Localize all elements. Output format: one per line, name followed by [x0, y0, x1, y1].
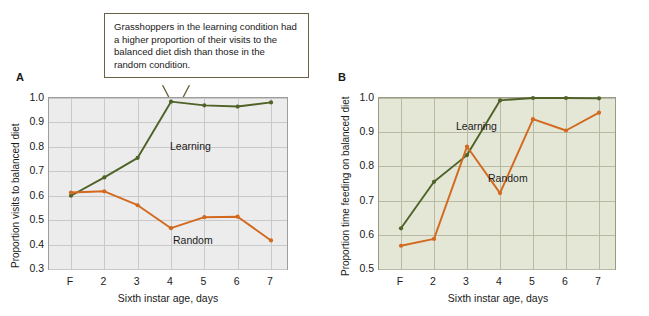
- x-tick-label: F: [60, 275, 80, 287]
- gridline-horizontal: [379, 269, 615, 270]
- panel-a-plot-area: [48, 97, 288, 270]
- figure-root: A Grasshoppers in the learning condition…: [0, 0, 649, 316]
- x-tick-label: 5: [193, 275, 213, 287]
- data-point-random: [102, 189, 106, 193]
- panel-a-callout: Grasshoppers in the learning condition h…: [104, 13, 309, 78]
- data-point-random: [169, 226, 173, 230]
- data-point-learning: [465, 153, 469, 157]
- data-point-learning: [169, 100, 173, 104]
- y-tick-label: 0.6: [340, 228, 374, 240]
- panel-a-random-label: Random: [173, 234, 213, 246]
- panel-a-callout-text: Grasshoppers in the learning condition h…: [114, 21, 299, 71]
- y-tick-label: 0.8: [340, 159, 374, 171]
- data-point-learning: [432, 180, 436, 184]
- y-tick-label: 1.0: [340, 91, 374, 103]
- data-point-learning: [597, 96, 601, 100]
- x-tick-label: 7: [260, 275, 280, 287]
- data-point-random: [69, 190, 73, 194]
- data-point-random: [597, 111, 601, 115]
- panel-a-x-ticks: F234567: [0, 275, 330, 289]
- panel-b-x-axis-label: Sixth instar age, days: [378, 292, 618, 304]
- y-tick-label: 0.5: [340, 262, 374, 274]
- panel-a-learning-label: Learning: [170, 140, 211, 152]
- data-point-random: [465, 144, 469, 148]
- data-point-random: [399, 244, 403, 248]
- x-tick-label: 3: [456, 275, 476, 287]
- x-tick-label: 4: [489, 275, 509, 287]
- series-layer: [49, 98, 287, 269]
- data-point-learning: [531, 96, 535, 100]
- data-point-random: [564, 128, 568, 132]
- x-tick-label: 2: [93, 275, 113, 287]
- y-tick-label: 0.4: [10, 238, 44, 250]
- data-point-random: [236, 215, 240, 219]
- data-point-learning: [399, 226, 403, 230]
- y-tick-label: 0.5: [10, 213, 44, 225]
- data-point-learning: [202, 103, 206, 107]
- panel-b-letter: B: [338, 71, 346, 83]
- data-point-random: [498, 191, 502, 195]
- data-point-learning: [269, 100, 273, 104]
- x-tick-label: 6: [555, 275, 575, 287]
- panel-a-letter: A: [16, 71, 24, 83]
- y-tick-label: 0.6: [10, 189, 44, 201]
- x-tick-label: 5: [522, 275, 542, 287]
- x-tick-label: 4: [160, 275, 180, 287]
- series-line-random: [71, 191, 271, 240]
- gridline-horizontal: [49, 269, 287, 270]
- data-point-learning: [236, 104, 240, 108]
- panel-a: A Grasshoppers in the learning condition…: [0, 0, 330, 316]
- y-tick-label: 0.8: [10, 140, 44, 152]
- x-tick-label: F: [390, 275, 410, 287]
- data-point-random: [269, 238, 273, 242]
- y-tick-label: 0.7: [340, 194, 374, 206]
- y-tick-label: 0.9: [340, 125, 374, 137]
- panel-a-x-axis-label: Sixth instar age, days: [48, 292, 288, 304]
- y-tick-label: 1.0: [10, 91, 44, 103]
- y-tick-label: 0.7: [10, 164, 44, 176]
- data-point-learning: [498, 98, 502, 102]
- data-point-random: [202, 215, 206, 219]
- x-tick-label: 2: [423, 275, 443, 287]
- data-point-random: [432, 237, 436, 241]
- data-point-learning: [564, 96, 568, 100]
- data-point-learning: [102, 175, 106, 179]
- panel-b-x-ticks: F234567: [330, 275, 649, 289]
- panel-b-y-axis-label: Proportion time feeding on balanced diet: [340, 96, 351, 276]
- data-point-learning: [136, 156, 140, 160]
- x-tick-label: 7: [588, 275, 608, 287]
- panel-b-random-label: Random: [488, 172, 528, 184]
- y-tick-label: 0.3: [10, 262, 44, 274]
- data-point-random: [531, 117, 535, 121]
- x-tick-label: 3: [127, 275, 147, 287]
- panel-b: B Grasshoppers in the random condition e…: [330, 0, 649, 316]
- x-tick-label: 6: [227, 275, 247, 287]
- panel-b-learning-label: Learning: [456, 120, 497, 132]
- data-point-random: [136, 203, 140, 207]
- series-line-learning: [401, 98, 599, 228]
- y-tick-label: 0.9: [10, 115, 44, 127]
